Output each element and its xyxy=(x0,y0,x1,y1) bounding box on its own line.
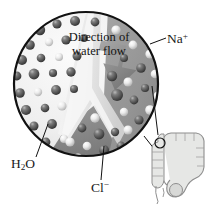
label-chloride-text: Cl xyxy=(91,180,104,195)
label-water-flow-direction: Direction of water flow xyxy=(56,30,142,58)
cecum-fold xyxy=(163,188,164,197)
label-flow-line1: Direction of xyxy=(69,30,130,44)
appendix xyxy=(156,186,158,204)
label-sodium-ion: Na+ xyxy=(167,32,188,46)
large-intestine-inset xyxy=(152,133,204,204)
biology-figure-colon-water-absorption: Direction of water flow Na+ H2O Cl− xyxy=(0,0,216,207)
label-water-text: H xyxy=(11,156,21,171)
descending-colon xyxy=(152,134,164,188)
label-flow-line2: water flow xyxy=(72,44,126,58)
label-sodium-text: Na xyxy=(167,31,183,46)
label-water-molecule: H2O xyxy=(11,157,35,172)
leader-line-sodium xyxy=(150,38,166,44)
label-chloride-ion: Cl− xyxy=(91,181,109,195)
magnified-view xyxy=(10,4,170,168)
label-chloride-charge: − xyxy=(104,180,109,190)
colon-main-path xyxy=(163,133,204,197)
label-sodium-charge: + xyxy=(183,31,188,41)
sigmoid-bulb xyxy=(170,184,183,197)
label-water-tail: O xyxy=(25,156,35,171)
